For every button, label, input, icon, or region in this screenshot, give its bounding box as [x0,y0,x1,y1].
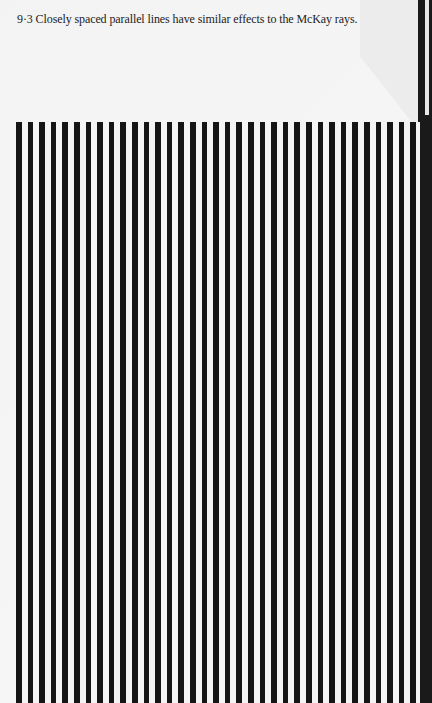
figure-caption: 9·3 Closely spaced parallel lines have s… [17,12,357,27]
page-edge-highlight [425,0,429,115]
parallel-lines-figure [16,122,420,703]
adjacent-page-edge [418,0,432,703]
